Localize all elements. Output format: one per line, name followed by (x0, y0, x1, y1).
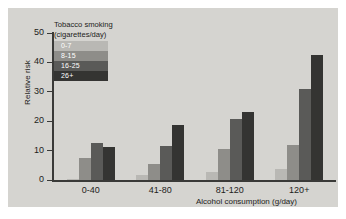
bar (67, 179, 79, 180)
x-axis-tick-label: 41-80 (128, 185, 192, 195)
y-axis-tick-label: 40 (22, 57, 44, 66)
legend-item-8-15: 8-15 (54, 51, 108, 61)
bar (242, 112, 254, 181)
bar (218, 149, 230, 180)
bar (172, 125, 184, 180)
y-axis-tick (47, 121, 52, 122)
legend-item-16-25: 16-25 (54, 61, 108, 71)
legend-swatches: 0-78-1516-2526+ (54, 41, 108, 81)
bar-group (275, 33, 323, 180)
y-axis-tick-label: 50 (22, 28, 44, 37)
y-axis-tick (47, 91, 52, 92)
y-axis-tick (47, 150, 52, 151)
legend: Tobacco smoking (cigarettes/day) 0-78-15… (52, 20, 128, 81)
bar (311, 55, 323, 180)
y-axis-tick-label: 0 (22, 175, 44, 184)
bar (103, 147, 115, 180)
x-axis-tick-label: 81-120 (198, 185, 262, 195)
legend-item-26plus: 26+ (54, 71, 108, 81)
bar (275, 169, 287, 180)
bar-group (136, 33, 184, 180)
x-axis-title: Alcohol consumption (g/day) (196, 197, 297, 206)
y-axis-tick-label: 30 (22, 87, 44, 96)
legend-item-0-7: 0-7 (54, 41, 108, 51)
legend-title-line-2: (cigarettes/day) (54, 30, 128, 40)
bar (91, 143, 103, 180)
bar (206, 172, 218, 180)
bar (299, 89, 311, 180)
bar (136, 175, 148, 180)
figure: Relative risk Alcohol consumption (g/day… (0, 0, 346, 219)
x-axis-tick-label: 120+ (267, 185, 331, 195)
y-axis-tick (47, 180, 52, 181)
bar (148, 164, 160, 180)
x-axis-line (52, 180, 336, 182)
y-axis-tick-label: 10 (22, 146, 44, 155)
y-axis-tick-label: 20 (22, 116, 44, 125)
bar (230, 119, 242, 180)
bar (79, 158, 91, 180)
bar (287, 145, 299, 180)
x-axis-tick-label: 0-40 (59, 185, 123, 195)
bar-group (206, 33, 254, 180)
bar (160, 146, 172, 180)
legend-title-line-1: Tobacco smoking (54, 20, 128, 30)
